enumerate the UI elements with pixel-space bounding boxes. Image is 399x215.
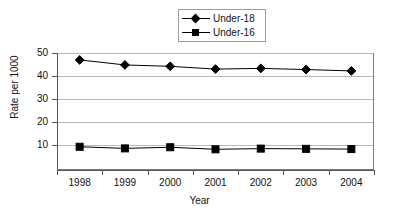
x-axis-tick (57, 170, 58, 175)
gridline (58, 145, 373, 146)
y-axis-tick (52, 76, 57, 77)
x-axis-tick-label: 2001 (194, 178, 238, 188)
x-axis-line (57, 170, 374, 171)
legend-item-under-18: Under-18 (182, 12, 262, 26)
x-axis-tick (374, 170, 375, 175)
chart-legend: Under-18 Under-16 (178, 9, 266, 42)
y-axis-tick (52, 53, 57, 54)
y-axis-line (57, 53, 58, 171)
legend-key-square-icon (182, 27, 210, 39)
x-axis-tick (238, 170, 239, 175)
x-axis-tick-label: 2002 (239, 178, 283, 188)
gridline (58, 122, 373, 123)
x-axis-tick-label: 2000 (148, 178, 192, 188)
y-axis-tick-label: 20 (18, 117, 48, 127)
y-axis-tick-label: 30 (18, 94, 48, 104)
legend-key-diamond-icon (182, 13, 210, 25)
y-axis-tick (52, 122, 57, 123)
x-axis-tick (102, 170, 103, 175)
x-axis-tick-label: 2003 (284, 178, 328, 188)
x-axis-tick (148, 170, 149, 175)
legend-label-under-18: Under-18 (210, 13, 255, 25)
legend-label-under-16: Under-16 (210, 27, 255, 39)
x-axis-tick (329, 170, 330, 175)
y-axis-tick-label: 10 (18, 140, 48, 150)
plot-area (57, 53, 374, 170)
gridline (58, 99, 373, 100)
y-axis-tick-label: 50 (18, 48, 48, 58)
gridline (58, 53, 373, 54)
y-axis-tick-label: 40 (18, 71, 48, 81)
x-axis-tick-label: 1999 (103, 178, 147, 188)
x-axis-tick (193, 170, 194, 175)
y-axis-tick (52, 99, 57, 100)
x-axis-tick (283, 170, 284, 175)
x-axis-tick-label: 2004 (329, 178, 373, 188)
legend-item-under-16: Under-16 (182, 26, 262, 40)
gridline (58, 76, 373, 77)
x-axis-tick-label: 1998 (58, 178, 102, 188)
x-axis-title: Year (0, 196, 399, 206)
line-chart: Under-18 Under-16 Rate per 1000 Year 102… (0, 0, 399, 215)
y-axis-tick (52, 145, 57, 146)
